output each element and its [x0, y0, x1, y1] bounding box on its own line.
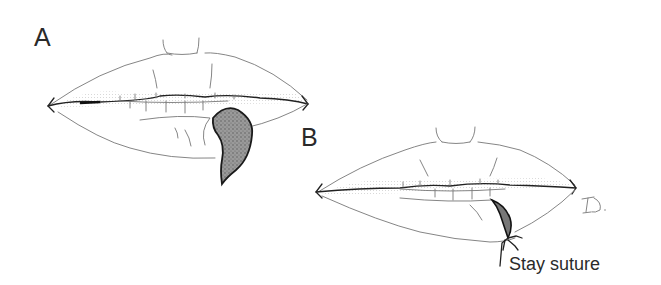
panel-a-drawing: [48, 38, 308, 184]
upper-lip-crease-left-b: [420, 160, 428, 176]
philtrum-right: [197, 38, 199, 53]
lower-lip-fold-b: [400, 198, 492, 201]
lower-lip-outline-b: [322, 190, 575, 242]
artist-signature: [582, 197, 606, 213]
philtrum-left-b: [436, 128, 442, 142]
philtrum-base-b: [442, 142, 470, 144]
lower-lip-fold: [140, 116, 210, 145]
stay-suture-label: Stay suture: [509, 255, 600, 273]
illustration-canvas: [0, 0, 661, 285]
commissure-left-dark: [80, 102, 100, 103]
panel-label-b: B: [301, 125, 318, 150]
lower-lip-outline: [58, 104, 307, 158]
philtrum-base: [167, 53, 197, 55]
upper-lip-stipple: [55, 91, 305, 107]
lower-lip-wrinkle-b: [470, 205, 482, 220]
philtrum-left: [163, 40, 167, 53]
closed-incision: [492, 200, 511, 238]
upper-lip-crease-left: [153, 70, 157, 88]
upper-lip-crease-right: [210, 64, 212, 88]
upper-lip-crease-right-b: [490, 158, 497, 176]
panel-b-drawing: [316, 127, 606, 266]
philtrum-right-b: [470, 127, 475, 142]
panel-label-a: A: [34, 25, 51, 50]
upper-lip-stipple-b: [322, 178, 574, 196]
lower-lip-wrinkle-1: [185, 130, 191, 146]
lower-lip-wrinkle-2: [175, 128, 178, 138]
lip-wedge-defect: [213, 108, 252, 184]
